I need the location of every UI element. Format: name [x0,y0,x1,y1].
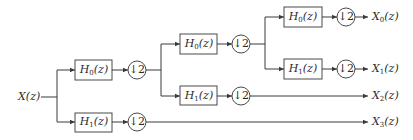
downsampler-label-d2: ↓2 [128,116,146,127]
output-label-x3: X3(z) [372,116,399,129]
filter-label-h0-level3: H0(z) [284,11,322,24]
filter-bank-diagram: X(z) H0(z) H1(z) H0(z) H1(z) H0(z) H1(z)… [0,0,413,140]
downsampler-label-d1: ↓2 [128,64,146,75]
output-label-x2: X2(z) [372,90,399,103]
filter-label-h1-level2: H1(z) [180,90,218,103]
input-label: X(z) [18,91,40,102]
filter-label-h1-level1: H1(z) [75,116,113,129]
filter-label-h0-level1: H0(z) [75,64,113,77]
output-label-x1: X1(z) [372,63,399,76]
filter-label-h0-level2: H0(z) [180,38,218,51]
downsampler-label-d5: ↓2 [337,11,355,22]
downsampler-label-d4: ↓2 [232,90,250,101]
downsampler-label-d6: ↓2 [337,63,355,74]
filter-label-h1-level3: H1(z) [284,63,322,76]
downsampler-label-d3: ↓2 [232,38,250,49]
output-label-x0: X0(z) [372,11,399,24]
